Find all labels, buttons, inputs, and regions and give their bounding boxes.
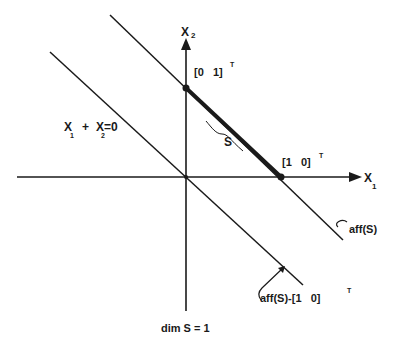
x2-axis-subscript: 2 bbox=[191, 31, 196, 40]
origin-line bbox=[50, 52, 303, 285]
x1-axis-label: X bbox=[364, 171, 372, 185]
point-1-0-label: [1 0] bbox=[282, 156, 311, 168]
x1-axis-subscript: 1 bbox=[372, 182, 377, 191]
origin-line-eq: =0 bbox=[104, 120, 118, 134]
aff-shift-label: aff(S)-[1 0] bbox=[260, 292, 321, 304]
point-0-1-label: [0 1] bbox=[194, 66, 223, 78]
point-1-0 bbox=[278, 174, 285, 181]
aff-s-label: aff(S) bbox=[349, 223, 377, 235]
diagram-svg: X 2 X 1 [0 1] T [1 0] T S X 1 + X 2 =0 a… bbox=[0, 0, 401, 344]
x2-axis-label: X bbox=[181, 25, 189, 39]
x2-arrow-icon bbox=[181, 38, 191, 50]
point-0-1 bbox=[183, 85, 190, 92]
point-1-0-transpose: T bbox=[319, 152, 324, 159]
origin-line-sub1: 1 bbox=[70, 132, 74, 139]
affine-hull-diagram: X 2 X 1 [0 1] T [1 0] T S X 1 + X 2 =0 a… bbox=[0, 0, 401, 344]
aff-shift-transpose: T bbox=[347, 287, 352, 294]
caption: dim S = 1 bbox=[161, 322, 210, 334]
origin-line-plus: + bbox=[82, 120, 89, 134]
segment-s bbox=[186, 88, 281, 177]
point-0-1-transpose: T bbox=[230, 61, 235, 68]
segment-s-label: S bbox=[224, 135, 232, 149]
aff-s-leader bbox=[337, 221, 347, 227]
origin-point bbox=[184, 175, 188, 179]
x1-arrow-icon bbox=[349, 172, 362, 182]
